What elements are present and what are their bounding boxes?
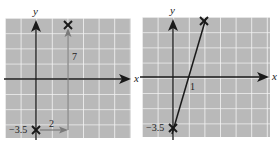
x-axis-label: x <box>133 72 139 84</box>
right-graph: x y −3.5 1 <box>140 4 277 140</box>
x-intercept-label: 1 <box>190 81 195 92</box>
run-label: 2 <box>49 118 54 129</box>
rise-label: 7 <box>72 51 77 62</box>
intercept-label: −3.5 <box>9 124 27 135</box>
y-axis-label: y <box>32 5 38 17</box>
intercept-label: −3.5 <box>146 122 164 133</box>
figure: x y 2 7 −3.5 x y <box>0 0 280 145</box>
y-axis-label: y <box>169 4 175 16</box>
left-graph: x y 2 7 −3.5 <box>4 5 139 140</box>
x-axis-label: x <box>271 70 277 82</box>
